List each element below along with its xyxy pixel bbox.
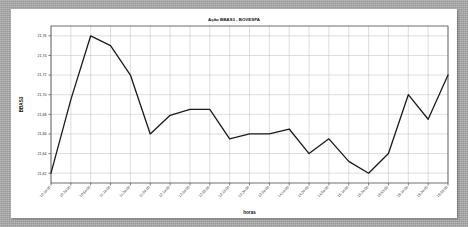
- chart-canvas: Ação BBAS3 - BOVESPA 21,7621,7421,7221,7…: [11, 9, 457, 218]
- y-tick-label: 21,72: [38, 73, 47, 77]
- y-tick-label: 21,76: [38, 34, 47, 38]
- y-tick-label: 21,62: [38, 172, 47, 176]
- chart-title: Ação BBAS3 - BOVESPA: [208, 17, 261, 22]
- y-axis-title: BBAS3: [19, 96, 24, 112]
- line-chart: Ação BBAS3 - BOVESPA 21,7621,7421,7221,7…: [11, 9, 457, 218]
- x-axis-title: horas: [243, 210, 256, 215]
- y-tick-label: 21,68: [38, 113, 47, 117]
- chart-background: [11, 9, 457, 218]
- y-tick-label: 21,74: [38, 54, 47, 58]
- chart-panel: Ação BBAS3 - BOVESPA 21,7621,7421,7221,7…: [11, 9, 457, 218]
- y-tick-label: 21,70: [38, 93, 47, 97]
- y-tick-label: 21,66: [38, 132, 47, 136]
- vertical-gridlines: [51, 26, 448, 183]
- y-tick-label: 21,64: [38, 152, 47, 156]
